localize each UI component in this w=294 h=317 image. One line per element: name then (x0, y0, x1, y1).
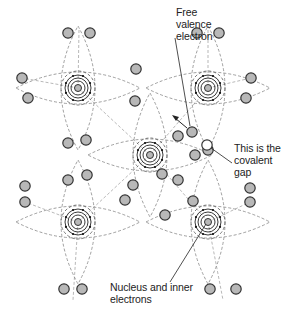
inner-electron-dot (195, 216, 197, 218)
inner-electron-dot (137, 159, 139, 161)
inner-electron-dot (202, 75, 204, 77)
inner-electron-dot (89, 92, 91, 94)
inner-electron-dot (219, 216, 221, 218)
label-free-valence-electron: Free valence electron (176, 6, 213, 42)
valence-electron (59, 284, 69, 294)
valence-electron (85, 28, 95, 38)
bond-connector (78, 155, 150, 222)
label-covalent-gap: This is the covalent gap (234, 142, 281, 178)
valence-electron (190, 150, 200, 160)
inner-electron-dot (195, 92, 197, 94)
valence-electron (23, 93, 33, 103)
valence-electron (214, 28, 224, 38)
covalent-gap-hole (202, 140, 212, 150)
inner-electron-dot (65, 226, 67, 228)
valence-electron (173, 175, 183, 185)
inner-electron-dot (219, 226, 221, 228)
valence-electron (173, 131, 183, 141)
valence-electron (81, 135, 91, 145)
valence-electron (20, 181, 30, 191)
inner-electron-dot (202, 209, 204, 211)
inner-electron-dot (72, 99, 74, 101)
inner-electron-dot (154, 142, 156, 144)
valence-electron (20, 197, 30, 207)
valence-electron (63, 138, 73, 148)
inner-electron-dot (89, 216, 91, 218)
valence-electron (231, 284, 241, 294)
inner-electron-dot (212, 209, 214, 211)
inner-electron-dot (89, 82, 91, 84)
inner-electron-dot (65, 92, 67, 94)
valence-electron (130, 96, 140, 106)
inner-electron-dot (219, 92, 221, 94)
inner-electron-dot (65, 82, 67, 84)
inner-electron-dot (212, 233, 214, 235)
inner-electron-dot (82, 233, 84, 235)
nucleus (205, 85, 212, 92)
inner-electron-dot (195, 226, 197, 228)
inner-electron-dot (89, 226, 91, 228)
bond-connector (78, 30, 79, 88)
valence-electron (131, 64, 141, 74)
valence-electron (82, 170, 92, 180)
valence-electron (205, 284, 215, 294)
valence-electron (120, 195, 130, 205)
inner-electron-dot (144, 142, 146, 144)
inner-electron-dot (202, 233, 204, 235)
inner-electron-dot (212, 75, 214, 77)
valence-electron (63, 175, 73, 185)
valence-electron (77, 284, 87, 294)
inner-electron-dot (72, 75, 74, 77)
inner-electron-dot (144, 166, 146, 168)
nucleus (75, 219, 82, 226)
free-electron-and-hole (187, 127, 212, 150)
free-electron (187, 127, 197, 137)
valence-electron (246, 73, 256, 83)
inner-electron-dot (195, 82, 197, 84)
inner-electron-dot (82, 75, 84, 77)
label-nucleus-inner-electrons: Nucleus and inner electrons (110, 281, 193, 305)
inner-electron-dot (161, 159, 163, 161)
inner-electron-dot (154, 166, 156, 168)
valence-electron (245, 197, 255, 207)
lattice-diagram: Free valence electron This is the covale… (0, 0, 294, 317)
nucleus (75, 85, 82, 92)
valence-electron (63, 28, 73, 38)
valence-electron (241, 93, 251, 103)
valence-electron (245, 183, 255, 193)
inner-electron-dot (72, 233, 74, 235)
valence-electron (128, 180, 138, 190)
inner-electron-dot (82, 209, 84, 211)
inner-electron-dot (82, 99, 84, 101)
inner-electron-dot (212, 99, 214, 101)
valence-electron (17, 73, 27, 83)
valence-electron (160, 210, 170, 220)
valence-electron (188, 196, 198, 206)
nucleus (147, 152, 154, 159)
valence-electron (157, 169, 167, 179)
inner-electron-dot (161, 149, 163, 151)
inner-electron-dot (137, 149, 139, 151)
inner-electron-dot (202, 99, 204, 101)
inner-electron-dot (72, 209, 74, 211)
inner-electron-dot (219, 82, 221, 84)
inner-electron-dot (65, 216, 67, 218)
